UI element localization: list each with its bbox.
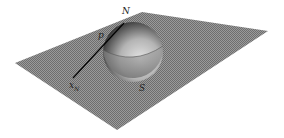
label-south: S xyxy=(139,84,145,93)
label-north: N xyxy=(122,7,130,16)
label-projection-sub: N xyxy=(74,85,79,92)
stereographic-diagram xyxy=(0,0,284,138)
label-projection: xN xyxy=(69,81,79,92)
label-point-p: p xyxy=(98,31,104,40)
